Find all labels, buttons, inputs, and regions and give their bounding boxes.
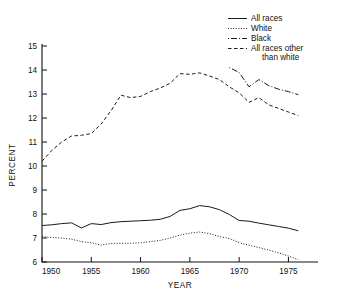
x-tick-label: 1960 bbox=[131, 267, 150, 276]
x-tick-label: 1950 bbox=[42, 267, 61, 276]
y-tick-label: 6 bbox=[32, 258, 37, 267]
legend-label-other-than-white-line2: than white bbox=[262, 53, 300, 62]
line-chart: 6789101112131415 19501955196019651970197… bbox=[0, 0, 339, 298]
y-tick-label: 9 bbox=[32, 186, 37, 195]
x-tick-label: 1965 bbox=[181, 267, 200, 276]
y-tick-label: 8 bbox=[32, 210, 37, 219]
legend-label-white: White bbox=[251, 24, 272, 33]
x-axis-title: YEAR bbox=[168, 281, 193, 290]
y-tick-label: 15 bbox=[28, 42, 38, 51]
chart-figure: 6789101112131415 19501955196019651970197… bbox=[0, 0, 339, 298]
y-tick-label: 11 bbox=[29, 138, 38, 147]
y-tick-label: 10 bbox=[28, 162, 38, 171]
y-tick-label: 7 bbox=[32, 234, 37, 243]
x-tick-label: 1970 bbox=[230, 267, 249, 276]
y-tick-label: 12 bbox=[28, 114, 38, 123]
legend-label-all-races: All races bbox=[251, 14, 282, 23]
x-tick-label: 1975 bbox=[279, 267, 298, 276]
y-tick-label: 14 bbox=[28, 66, 38, 75]
legend-label-other-than-white: All races other bbox=[251, 44, 304, 53]
x-tick-label: 1955 bbox=[82, 267, 101, 276]
legend-label-black: Black bbox=[251, 34, 272, 43]
y-tick-label: 13 bbox=[28, 90, 38, 99]
y-axis-title: PERCENT bbox=[8, 143, 17, 186]
